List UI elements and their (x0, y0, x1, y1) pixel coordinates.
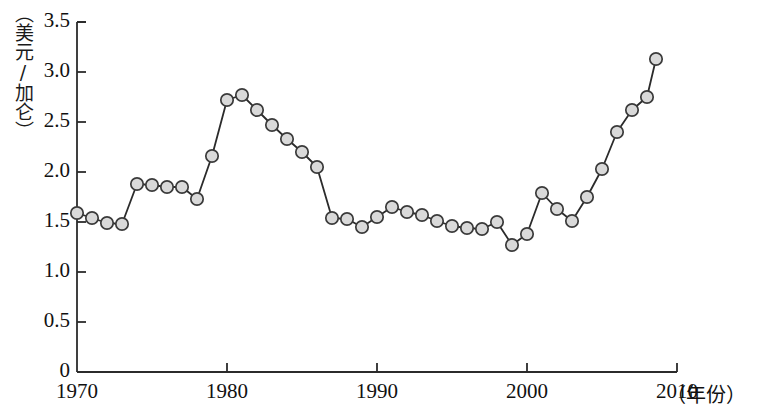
y-tick-label-7: 3.5 (22, 8, 70, 33)
data-point-21 (386, 201, 398, 213)
data-point-35 (596, 163, 608, 175)
data-point-2 (101, 217, 113, 229)
data-point-3 (116, 218, 128, 230)
data-point-10 (221, 94, 233, 106)
y-tick-label-3: 1.5 (22, 208, 70, 233)
data-point-24 (431, 215, 443, 227)
data-point-29 (506, 239, 518, 251)
data-point-11 (236, 89, 248, 101)
data-point-7 (176, 181, 188, 193)
data-point-33 (566, 215, 578, 227)
data-point-1 (86, 212, 98, 224)
data-point-31 (536, 187, 548, 199)
data-point-markers (71, 53, 662, 251)
data-point-26 (461, 222, 473, 234)
data-point-22 (401, 206, 413, 218)
data-point-19 (356, 221, 368, 233)
x-tick-label-0: 1970 (37, 379, 117, 404)
y-tick-label-1: 0.5 (22, 308, 70, 333)
data-point-39 (650, 53, 662, 65)
x-tick-label-3: 2000 (487, 379, 567, 404)
data-point-4 (131, 178, 143, 190)
x-tick-label-1: 1980 (187, 379, 267, 404)
data-point-30 (521, 228, 533, 240)
tick-marks (77, 22, 527, 372)
data-point-9 (206, 150, 218, 162)
data-point-20 (371, 211, 383, 223)
x-axis-label: （年份） (666, 379, 746, 408)
data-point-0 (71, 207, 83, 219)
y-tick-label-6: 3.0 (22, 58, 70, 83)
data-point-36 (611, 126, 623, 138)
data-point-25 (446, 220, 458, 232)
data-point-17 (326, 212, 338, 224)
gasoline-price-chart: （美元/加仑） 00.51.01.52.02.53.03.5 197019801… (0, 0, 777, 411)
data-point-16 (311, 161, 323, 173)
data-point-34 (581, 191, 593, 203)
data-point-28 (491, 216, 503, 228)
data-point-15 (296, 146, 308, 158)
data-point-18 (341, 213, 353, 225)
y-tick-label-5: 2.5 (22, 108, 70, 133)
plot-area (0, 0, 777, 411)
data-point-12 (251, 104, 263, 116)
data-point-37 (626, 104, 638, 116)
data-point-32 (551, 203, 563, 215)
data-point-14 (281, 133, 293, 145)
data-point-23 (416, 209, 428, 221)
data-point-27 (476, 223, 488, 235)
y-tick-label-2: 1.0 (22, 258, 70, 283)
data-point-13 (266, 119, 278, 131)
x-tick-label-2: 1990 (337, 379, 417, 404)
y-tick-label-4: 2.0 (22, 158, 70, 183)
data-point-5 (146, 179, 158, 191)
data-point-38 (641, 91, 653, 103)
data-point-6 (161, 181, 173, 193)
data-point-8 (191, 193, 203, 205)
